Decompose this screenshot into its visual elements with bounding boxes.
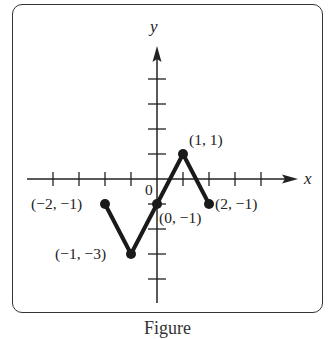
origin-label: 0 [145,182,153,198]
x-axis-label: x [304,170,312,187]
point-label-2-neg1: (2, −1) [215,196,257,212]
figure-caption: Figure [0,318,335,339]
y-axis-label: y [150,18,158,35]
point-label-0-neg1: (0, −1) [159,210,201,226]
point-label-neg1-neg3: (−1, −3) [55,246,106,262]
point-2-neg1 [204,199,214,209]
point-0-neg1 [152,199,162,209]
point-1-1 [178,149,188,159]
point-label-neg2-neg1: (−2, −1) [31,196,82,212]
point-label-1-1: (1, 1) [189,132,223,148]
point-neg2-neg1 [100,199,110,209]
point-neg1-neg3 [126,249,136,259]
